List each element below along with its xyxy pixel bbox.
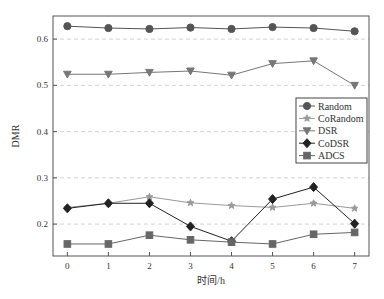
y-axis-label: DMR (10, 124, 21, 147)
series-adcs (64, 229, 358, 247)
data-point (187, 199, 194, 206)
data-point (187, 24, 194, 31)
x-tick-label: 2 (147, 261, 152, 271)
x-tick-label: 0 (65, 261, 70, 271)
x-axis-label: 时间/h (197, 274, 225, 286)
data-point (228, 25, 235, 32)
data-point (228, 239, 235, 246)
data-point (228, 72, 236, 79)
data-point (64, 23, 71, 30)
legend-label: CoDSR (318, 138, 349, 149)
legend-marker (304, 152, 311, 159)
data-point (351, 229, 358, 236)
data-point (310, 200, 317, 207)
data-point (186, 222, 194, 231)
legend-label: CoRandom (318, 113, 364, 124)
data-point (104, 199, 112, 208)
data-point (269, 241, 276, 248)
y-tick-label: 0.6 (37, 34, 49, 44)
x-tick-label: 7 (352, 261, 357, 271)
y-tick-label: 0.4 (37, 127, 49, 137)
legend-label: Random (318, 101, 352, 112)
data-point (145, 199, 153, 208)
data-point (269, 23, 276, 30)
y-axis: 0.20.30.40.50.6 (37, 34, 57, 229)
x-tick-label: 4 (229, 261, 234, 271)
x-tick-label: 6 (311, 261, 316, 271)
y-tick-label: 0.2 (37, 219, 48, 229)
data-point (63, 204, 71, 213)
data-point (310, 24, 317, 31)
data-point (228, 202, 235, 209)
legend-label: ADCS (318, 150, 345, 161)
legend-label: DSR (318, 125, 338, 136)
legend-marker (303, 102, 310, 109)
data-point (351, 205, 358, 212)
x-axis: 01234567 (65, 252, 357, 271)
data-point (64, 241, 71, 248)
y-tick-label: 0.3 (37, 173, 49, 183)
data-point (187, 237, 194, 244)
y-tick-label: 0.5 (37, 80, 49, 90)
data-point (146, 232, 153, 239)
series-dsr (64, 58, 359, 89)
x-tick-label: 5 (270, 261, 275, 271)
data-point (146, 25, 153, 32)
series-random (64, 23, 358, 35)
legend: RandomCoRandomDSRCoDSRADCS (296, 98, 367, 163)
data-point (269, 204, 276, 211)
data-point (310, 231, 317, 238)
x-tick-label: 3 (188, 261, 193, 271)
line-chart: 0.20.30.40.50.6 01234567 DMR 时间/h Random… (0, 0, 384, 299)
legend-item: CoDSR (299, 138, 349, 149)
data-point (105, 24, 112, 31)
data-point (105, 241, 112, 248)
data-point (351, 28, 358, 35)
x-tick-label: 1 (106, 261, 111, 271)
legend-item: Random (299, 101, 352, 112)
